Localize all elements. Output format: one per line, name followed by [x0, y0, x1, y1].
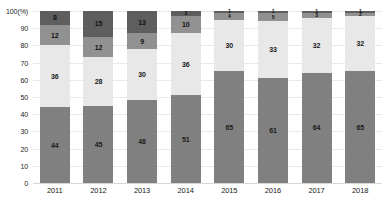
bar-segment-value: 28: [95, 78, 102, 85]
bar-segment: 51: [171, 95, 201, 183]
bar-segment-value: 12: [95, 44, 102, 51]
bar-segment-value: 64: [313, 124, 320, 131]
bar-segment: 28: [83, 57, 113, 105]
bar-segment-value: 12: [51, 32, 58, 39]
bar-segment: 4: [214, 13, 244, 20]
x-axis: 20112012201320142015201620172018: [33, 186, 382, 206]
y-axis-tick-label: 40: [20, 111, 28, 118]
bar-segment-value: 48: [138, 138, 145, 145]
bar-segment: 65: [345, 71, 375, 183]
bar-segment: 12: [83, 37, 113, 58]
bar-segment: 45: [83, 106, 113, 183]
stacked-bar-chart: 100(%)9080706050403020100 81236441512284…: [0, 0, 387, 215]
x-axis-tick-label: 2014: [163, 186, 209, 195]
bar-segment: 9: [127, 33, 157, 48]
bar-segment-value: 65: [356, 124, 363, 131]
bar-segment-value: 30: [226, 42, 233, 49]
x-axis-tick-label: 2017: [294, 186, 340, 195]
bar-2013[interactable]: 1393048: [127, 11, 157, 183]
x-axis-tick-label: 2013: [119, 186, 165, 195]
bar-2012[interactable]: 15122845: [83, 11, 113, 183]
bar-segment: 12: [40, 25, 70, 46]
bar-2016[interactable]: 153361: [258, 11, 288, 183]
bar-segment: 61: [258, 78, 288, 183]
bar-segment: 15: [83, 11, 113, 37]
bar-2014[interactable]: 3103651: [171, 11, 201, 183]
bar-segment: 32: [345, 16, 375, 71]
plot-area: 8123644151228451393048310365114306515336…: [33, 11, 382, 183]
bar-segment: 10: [171, 16, 201, 33]
bar-segment: 30: [127, 49, 157, 101]
y-axis-tick-label: 100(%): [6, 8, 28, 15]
gridline: [33, 183, 382, 184]
bar-segment-value: 36: [51, 73, 58, 80]
bar-segment: 30: [214, 20, 244, 72]
y-axis: 100(%)9080706050403020100: [0, 11, 31, 183]
bar-segment-value: 13: [138, 19, 145, 26]
bar-segment-value: 36: [182, 61, 189, 68]
bar-segment: 64: [302, 73, 332, 183]
y-axis-tick-label: 30: [20, 128, 28, 135]
bar-segment-value: 44: [51, 142, 58, 149]
y-axis-tick-label: 70: [20, 59, 28, 66]
bar-segment: 36: [171, 33, 201, 95]
y-axis-tick-label: 90: [20, 25, 28, 32]
bar-segment-value: 8: [53, 14, 57, 21]
bar-segment-value: 9: [140, 38, 144, 45]
y-axis-tick-label: 0: [24, 180, 28, 187]
bar-segment: 8: [40, 11, 70, 25]
bar-segment-value: 32: [313, 42, 320, 49]
bar-segment: 13: [127, 11, 157, 33]
x-axis-tick-label: 2018: [337, 186, 383, 195]
bar-segment-value: 51: [182, 136, 189, 143]
y-axis-tick-label: 60: [20, 76, 28, 83]
bar-2015[interactable]: 143065: [214, 11, 244, 183]
x-axis-tick-label: 2011: [32, 186, 78, 195]
bar-segment-value: 65: [226, 124, 233, 131]
bar-segment: 44: [40, 107, 70, 183]
bar-segment: 48: [127, 100, 157, 183]
bar-segment: 33: [258, 21, 288, 78]
bar-segment-value: 45: [95, 141, 102, 148]
bar-segment-value: 30: [138, 71, 145, 78]
x-axis-tick-label: 2012: [75, 186, 121, 195]
bar-2017[interactable]: 133264: [302, 11, 332, 183]
bar-segment: 5: [258, 13, 288, 22]
bar-segment-value: 4: [228, 14, 231, 19]
bar-segment-value: 5: [272, 15, 275, 20]
bar-segment-value: 10: [182, 21, 189, 28]
bar-2011[interactable]: 8123644: [40, 11, 70, 183]
x-axis-tick-label: 2016: [250, 186, 296, 195]
bar-segment: 65: [214, 71, 244, 183]
y-axis-tick-label: 20: [20, 145, 28, 152]
y-axis-tick-label: 80: [20, 42, 28, 49]
y-axis-tick-label: 50: [20, 94, 28, 101]
bar-segment-value: 32: [356, 40, 363, 47]
bar-segment-value: 15: [95, 20, 102, 27]
bar-segment-value: 33: [269, 46, 276, 53]
y-axis-tick-label: 10: [20, 162, 28, 169]
bar-segment: 32: [302, 18, 332, 73]
bar-segment: 36: [40, 45, 70, 107]
bar-2018[interactable]: 123265: [345, 11, 375, 183]
bar-segment-value: 61: [269, 127, 276, 134]
x-axis-tick-label: 2015: [206, 186, 252, 195]
